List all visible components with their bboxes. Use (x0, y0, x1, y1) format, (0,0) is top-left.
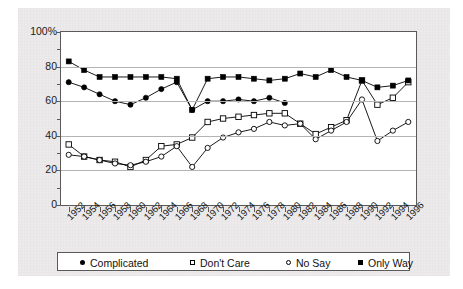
data-point (344, 74, 349, 79)
data-point (390, 95, 395, 100)
data-point (97, 92, 102, 97)
data-point (329, 68, 334, 73)
data-point (313, 74, 318, 79)
y-tick-minor-90 (57, 49, 61, 50)
y-tick-minor-70 (57, 84, 61, 85)
y-tick-minor-10 (57, 188, 61, 189)
data-point (97, 74, 102, 79)
series-layer (61, 32, 416, 205)
data-point (205, 119, 210, 124)
data-point (282, 111, 287, 116)
data-point (220, 116, 225, 121)
y-axis-label-100: 100% (30, 26, 57, 37)
legend-item-complicated[interactable]: Complicated (80, 256, 148, 269)
data-point (112, 161, 117, 166)
data-point (282, 76, 287, 81)
data-point (82, 154, 87, 159)
data-point (205, 145, 210, 150)
legend-item-no-say[interactable]: No Say (286, 256, 330, 269)
chart-figure: 020406080100% 19521954195619581960196219… (0, 0, 463, 289)
data-point (66, 80, 71, 85)
data-point (143, 74, 148, 79)
data-point (251, 112, 256, 117)
data-point (390, 128, 395, 133)
data-point (236, 114, 241, 119)
gridline-40 (61, 136, 416, 137)
data-point (236, 74, 241, 79)
data-point (159, 154, 164, 159)
data-point (82, 68, 87, 73)
data-point (66, 59, 71, 64)
data-point (174, 144, 179, 149)
x-axis-labels: 1952195419561958196019621964196619681970… (60, 213, 417, 247)
data-point (329, 128, 334, 133)
data-point (313, 137, 318, 142)
data-point (267, 119, 272, 124)
data-point (375, 138, 380, 143)
data-point (267, 95, 272, 100)
legend-label: Only Way (368, 257, 413, 269)
data-point (251, 126, 256, 131)
y-tick-20 (56, 170, 61, 171)
data-point (66, 142, 71, 147)
chart-legend: ComplicatedDon't CareNo SayOnly Way (57, 252, 410, 271)
open-circle-icon (286, 260, 291, 265)
data-point (359, 78, 364, 83)
data-point (190, 164, 195, 169)
data-point (267, 111, 272, 116)
data-point (128, 163, 133, 168)
data-point (221, 74, 226, 79)
data-point (267, 78, 272, 83)
y-tick-minor-50 (57, 119, 61, 120)
data-point (344, 119, 349, 124)
data-point (190, 107, 195, 112)
data-point (159, 74, 164, 79)
gridline-60 (61, 101, 416, 102)
y-tick-100 (56, 32, 61, 33)
gridline-80 (61, 67, 416, 68)
series-complicated (66, 80, 287, 113)
data-point (128, 102, 133, 107)
data-point (205, 76, 210, 81)
open-square-icon (190, 260, 195, 265)
data-point (282, 123, 287, 128)
series-don-t-care (66, 78, 411, 170)
data-point (298, 121, 303, 126)
data-point (298, 71, 303, 76)
data-point (128, 74, 133, 79)
data-point (97, 157, 102, 162)
data-point (375, 85, 380, 90)
series-line (69, 80, 409, 167)
data-point (159, 86, 164, 91)
data-point (251, 76, 256, 81)
y-tick-minor-30 (57, 153, 61, 154)
data-point (236, 130, 241, 135)
legend-item-don-t-care[interactable]: Don't Care (190, 256, 250, 269)
y-tick-0 (56, 205, 61, 206)
data-point (174, 76, 179, 81)
data-point (66, 152, 71, 157)
filled-square-icon (358, 260, 363, 265)
data-point (406, 78, 411, 83)
filled-circle-icon (80, 260, 85, 265)
plot-area (60, 31, 417, 206)
data-point (82, 85, 87, 90)
legend-label: Don't Care (200, 257, 250, 269)
data-point (113, 74, 118, 79)
y-tick-40 (56, 136, 61, 137)
data-point (375, 102, 380, 107)
legend-label: Complicated (90, 257, 148, 269)
data-point (159, 143, 164, 148)
data-point (143, 95, 148, 100)
gridline-20 (61, 170, 416, 171)
y-tick-80 (56, 67, 61, 68)
data-point (406, 119, 411, 124)
legend-label: No Say (296, 257, 330, 269)
data-point (390, 83, 395, 88)
y-axis-labels: 020406080100% (14, 31, 57, 206)
legend-item-only-way[interactable]: Only Way (358, 256, 413, 269)
y-tick-60 (56, 101, 61, 102)
data-point (143, 159, 148, 164)
